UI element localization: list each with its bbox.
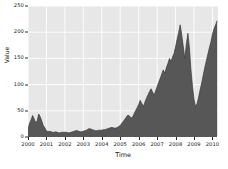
y-tick-label: 50 — [17, 108, 24, 113]
x-tick-mark — [83, 137, 84, 140]
x-tick-label: 2002 — [58, 142, 71, 147]
x-tick-label: 2006 — [132, 142, 145, 147]
x-tick-mark — [65, 137, 66, 140]
y-axis: Value 050100150200250 — [0, 0, 28, 143]
y-tick-label: 100 — [14, 82, 24, 87]
chart-figure: Value 050100150200250 Time 2000200120022… — [0, 0, 228, 169]
x-tick-label: 2008 — [169, 142, 182, 147]
x-tick-mark — [212, 137, 213, 140]
x-tick-label: 2001 — [40, 142, 53, 147]
y-tick-label: 0 — [21, 134, 24, 139]
x-tick-mark — [28, 137, 29, 140]
x-tick-mark — [194, 137, 195, 140]
x-tick-label: 2009 — [187, 142, 200, 147]
x-tick-label: 2010 — [206, 142, 219, 147]
x-tick-label: 2004 — [95, 142, 108, 147]
plot-area — [28, 6, 218, 137]
x-tick-mark — [46, 137, 47, 140]
y-tick-label: 150 — [14, 56, 24, 61]
x-tick-mark — [139, 137, 140, 140]
x-tick-mark — [176, 137, 177, 140]
area-chart-svg — [28, 6, 218, 137]
x-tick-mark — [120, 137, 121, 140]
x-tick-mark — [102, 137, 103, 140]
x-tick-label: 2005 — [114, 142, 127, 147]
x-axis: Time 20002001200220032004200520062007200… — [28, 137, 218, 169]
y-tick-label: 200 — [14, 30, 24, 35]
x-axis-label: Time — [28, 152, 218, 158]
y-tick-label: 250 — [14, 3, 24, 8]
x-tick-label: 2000 — [21, 142, 34, 147]
x-tick-label: 2007 — [150, 142, 163, 147]
x-tick-label: 2003 — [77, 142, 90, 147]
x-tick-mark — [157, 137, 158, 140]
y-axis-label: Value — [4, 35, 10, 75]
